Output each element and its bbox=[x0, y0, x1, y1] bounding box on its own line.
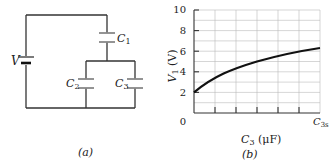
c3-label: C3 bbox=[115, 77, 129, 91]
x-axis-label: C3 (μF) bbox=[241, 133, 281, 147]
caption-a: (a) bbox=[78, 146, 93, 159]
c1-label: C1 bbox=[117, 32, 131, 46]
y-axis-label: V1 (V) bbox=[166, 49, 180, 82]
battery-icon bbox=[18, 57, 34, 63]
y-tick-8: 8 bbox=[180, 25, 186, 36]
y-tick-10: 10 bbox=[173, 4, 186, 15]
caption-b: (b) bbox=[242, 148, 258, 161]
capacitor-c2-icon bbox=[78, 79, 94, 88]
y-tick-4: 4 bbox=[180, 66, 186, 77]
capacitor-c3-icon bbox=[127, 79, 143, 88]
c2-label: C2 bbox=[66, 77, 80, 91]
origin-label: 0 bbox=[180, 116, 186, 127]
voltage-label: V bbox=[11, 54, 21, 68]
x-end-label: C3s bbox=[313, 116, 329, 129]
capacitor-c1-icon bbox=[99, 33, 115, 42]
figure: V C1 C2 C3 (a) bbox=[0, 0, 336, 166]
y-tick-2: 2 bbox=[180, 87, 186, 98]
circuit-diagram bbox=[26, 15, 135, 108]
y-tick-6: 6 bbox=[180, 46, 186, 57]
